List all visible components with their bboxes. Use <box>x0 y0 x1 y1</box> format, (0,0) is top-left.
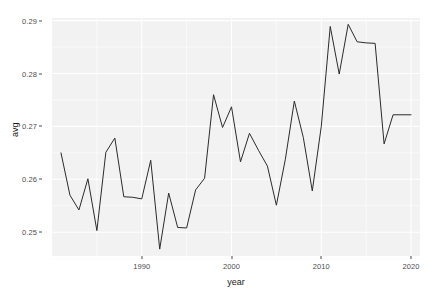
y-tick-mark <box>39 20 42 21</box>
x-axis-title: year <box>52 277 420 287</box>
x-axis: 1990200020102020 <box>52 256 420 276</box>
y-tick-label: 0.25 <box>22 228 37 237</box>
data-line-layer <box>52 18 420 256</box>
x-tick-mark <box>321 256 322 259</box>
y-tick-label: 0.28 <box>22 69 37 78</box>
y-tick-mark <box>39 73 42 74</box>
y-tick-label: 0.26 <box>22 175 37 184</box>
y-tick-label: 0.27 <box>22 122 37 131</box>
y-tick-mark <box>39 126 42 127</box>
data-line-avg <box>61 24 411 249</box>
y-tick-mark <box>39 232 42 233</box>
y-tick-mark <box>39 179 42 180</box>
x-tick-label: 2010 <box>313 262 330 271</box>
y-tick-label: 0.29 <box>22 16 37 25</box>
plot-panel-wrapper <box>52 18 420 256</box>
x-tick-mark <box>411 256 412 259</box>
x-tick-mark <box>141 256 142 259</box>
x-tick-label: 1990 <box>133 262 150 271</box>
x-tick-mark <box>231 256 232 259</box>
y-axis: 0.250.260.270.280.29 <box>0 18 44 256</box>
chart-container: 0.250.260.270.280.29 1990200020102020 ye… <box>0 0 434 305</box>
y-axis-title: avg <box>10 122 20 137</box>
x-tick-label: 2020 <box>402 262 419 271</box>
x-tick-label: 2000 <box>223 262 240 271</box>
